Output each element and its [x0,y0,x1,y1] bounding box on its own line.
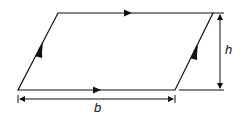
height-label: h [225,43,232,56]
parallel-mark-right [190,44,198,60]
parallelogram-diagram: b h [0,0,241,116]
diagram-canvas [0,0,241,116]
parallel-mark-bottom [93,87,101,94]
base-label: b [94,101,101,114]
parallel-mark-left [35,42,43,58]
parallel-mark-top [124,10,132,17]
parallelogram-shape [18,13,213,90]
